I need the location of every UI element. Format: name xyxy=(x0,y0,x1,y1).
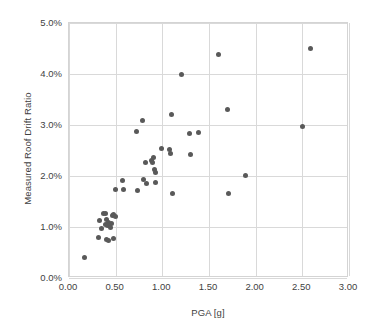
gridline-horizontal xyxy=(69,176,347,177)
gridline-vertical xyxy=(349,23,350,276)
gridline-vertical xyxy=(69,23,70,276)
data-point xyxy=(150,160,155,165)
data-point xyxy=(300,124,305,129)
data-point xyxy=(159,146,164,151)
data-point xyxy=(308,46,313,51)
data-point xyxy=(168,151,173,156)
y-axis-tick-label: 5.0% xyxy=(6,17,62,28)
gridline-horizontal xyxy=(69,23,347,24)
x-axis-title: PGA [g] xyxy=(68,307,348,318)
data-point xyxy=(120,178,125,183)
data-point xyxy=(243,173,248,178)
plot-area xyxy=(68,22,348,277)
y-axis-tick-label: 1.0% xyxy=(6,221,62,232)
gridline-vertical xyxy=(256,23,257,276)
data-point xyxy=(226,191,231,196)
scatter-chart: Measured Roof Drift Ratio 0.0%1.0%2.0%3.… xyxy=(0,0,374,327)
data-point xyxy=(188,152,193,157)
data-point xyxy=(169,112,174,117)
data-point xyxy=(103,211,108,216)
data-point xyxy=(187,131,192,136)
gridline-vertical xyxy=(302,23,303,276)
data-point xyxy=(106,238,111,243)
data-point xyxy=(113,187,118,192)
data-point xyxy=(96,235,101,240)
x-axis-tick-label: 2.00 xyxy=(233,281,277,292)
data-point xyxy=(140,118,145,123)
data-point xyxy=(135,188,140,193)
data-point xyxy=(144,181,149,186)
gridline-vertical xyxy=(116,23,117,276)
data-point xyxy=(113,214,118,219)
data-point xyxy=(134,129,139,134)
y-axis-tick-labels: 0.0%1.0%2.0%3.0%4.0%5.0% xyxy=(0,22,68,277)
data-point xyxy=(121,187,126,192)
x-axis-tick-label: 1.50 xyxy=(186,281,230,292)
data-point xyxy=(143,160,148,165)
data-point xyxy=(99,226,104,231)
x-axis-tick-label: 0.00 xyxy=(46,281,90,292)
x-axis-tick-labels: 0.000.501.001.502.002.503.00 xyxy=(68,281,348,297)
y-axis-tick-label: 4.0% xyxy=(6,68,62,79)
gridline-vertical xyxy=(209,23,210,276)
data-point xyxy=(153,180,158,185)
gridline-horizontal xyxy=(69,278,347,279)
gridline-horizontal xyxy=(69,74,347,75)
data-point xyxy=(196,130,201,135)
data-point xyxy=(225,107,230,112)
data-point xyxy=(151,155,156,160)
data-point xyxy=(179,72,184,77)
x-axis-tick-label: 2.50 xyxy=(279,281,323,292)
data-point xyxy=(109,221,114,226)
y-axis-tick-label: 2.0% xyxy=(6,170,62,181)
data-point xyxy=(170,191,175,196)
data-point xyxy=(216,52,221,57)
gridline-horizontal xyxy=(69,125,347,126)
x-axis-tick-label: 3.00 xyxy=(326,281,370,292)
data-point xyxy=(97,218,102,223)
y-axis-tick-label: 3.0% xyxy=(6,119,62,130)
x-axis-tick-label: 1.00 xyxy=(139,281,183,292)
data-point xyxy=(82,255,87,260)
data-point xyxy=(153,170,158,175)
x-axis-tick-label: 0.50 xyxy=(93,281,137,292)
